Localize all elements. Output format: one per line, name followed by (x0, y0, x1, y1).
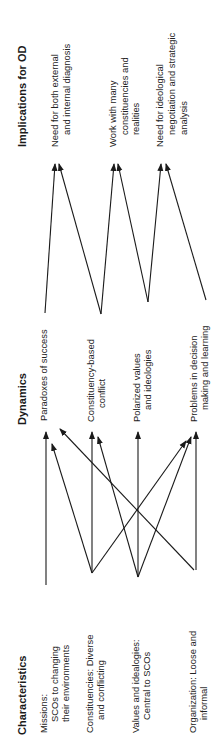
arrow-constituencies-to-problems (92, 441, 186, 573)
arrow-polarized-to-negotiation (148, 164, 161, 302)
header-implications: Implications for OD (16, 45, 28, 147)
node-constituencies: Constituencies: Diverse and conflicting (84, 635, 106, 733)
node-values: Values and idealogies: Central to SCOs (130, 639, 152, 733)
node-negotiation: Need for ideological negotiation and str… (154, 33, 189, 147)
node-diagnosis: Need for both external and internal diag… (49, 43, 72, 147)
arrow-problems-to-negotiation (166, 164, 206, 300)
node-line: Need for ideological (154, 64, 165, 147)
arrow-conflict-to-constituencies_work (101, 164, 114, 314)
arrow-values-to-problems (138, 437, 191, 577)
od-diagram: Characteristics Dynamics Implications fo… (0, 0, 224, 742)
node-line: SCOs to changing (49, 646, 60, 722)
node-paradoxes: Paradoxes of success (38, 329, 49, 421)
node-line: Central to SCOs (141, 651, 152, 720)
node-line: Need for both external (49, 54, 60, 147)
header-characteristics: Characteristics (16, 656, 28, 736)
node-line: informal (198, 687, 209, 720)
node-line: Problems in decision (188, 336, 199, 423)
node-line: Organization: Loose and (187, 631, 198, 733)
node-line: conflict (96, 378, 107, 408)
node-line: Constituencies: Diverse (84, 635, 95, 733)
node-line: Work with many (107, 80, 118, 147)
arrow-constituencies-to-paradoxes (52, 444, 92, 573)
node-line: Paradoxes of success (38, 329, 49, 421)
node-line: negotiation and strategic (166, 33, 177, 135)
arrow-organization-to-paradoxes (60, 429, 194, 570)
node-line: constituencies and (119, 57, 130, 135)
node-line: analysis (178, 101, 189, 135)
node-line: Constituency-based (85, 339, 96, 422)
arrow-paradoxes-to-diagnosis (45, 164, 55, 313)
node-line: Missions: (38, 694, 49, 733)
node-line: their environments (60, 645, 71, 722)
node-line: Polarized values (131, 353, 142, 422)
arrows-layer (45, 164, 206, 585)
node-problems: Problems in decision making and learning (188, 326, 210, 422)
node-constituencies-work: Work with many constituencies and realit… (107, 57, 141, 147)
node-conflict: Constituency-based conflict (85, 339, 107, 422)
node-line: Values and idealogies: (130, 639, 141, 733)
arrow-conflict-to-diagnosis (59, 164, 101, 314)
node-line: making and learning (199, 326, 210, 410)
node-line: realities (130, 102, 141, 135)
arrow-polarized-to-constituencies_work (118, 164, 148, 302)
header-dynamics: Dynamics (16, 373, 28, 425)
node-line: and internal diagnosis (61, 43, 72, 135)
node-line: and conflicting (95, 660, 106, 720)
node-polarized: Polarized values and ideologies (131, 349, 153, 422)
node-missions: Missions: SCOs to changing their environ… (38, 645, 71, 733)
node-organization: Organization: Loose and informal (187, 631, 209, 733)
node-line: and ideologies (142, 349, 153, 410)
